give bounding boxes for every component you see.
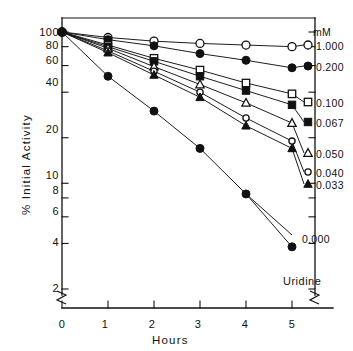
y-tick-label-100: 100 [19, 27, 59, 38]
y-axis-title: % Initial Activity [21, 114, 33, 215]
legend-label-0000[interactable]: 0.000 [302, 234, 330, 245]
x-tick-label-4: 4 [235, 319, 255, 330]
x-tick-label-3: 3 [188, 319, 208, 330]
x-tick-label-1: 1 [95, 319, 115, 330]
y-tick-label-40: 40 [19, 77, 59, 88]
axis-ticks [62, 32, 315, 308]
x-axis-title: Hours [152, 335, 189, 347]
x-tick-label-0: 0 [52, 319, 72, 330]
series-markers [57, 27, 296, 250]
y-tick-label-80: 80 [19, 40, 59, 51]
y-tick-label-60: 60 [19, 55, 59, 66]
axis-break-marks [57, 291, 319, 304]
x-tick-label-5: 5 [282, 319, 302, 330]
legend-label-0067[interactable]: 0.067 [316, 118, 344, 129]
legend-label-0100[interactable]: 0.100 [316, 98, 344, 109]
legend-header-mM: mM [313, 27, 331, 38]
figure-semilog-inactivation-plot: 100 80 60 40 20 10 8 6 4 2 % Initial Act… [0, 0, 353, 351]
axis-frame [62, 18, 333, 308]
compound-annotation-uridine: Uridine [283, 276, 321, 287]
series-lines [62, 32, 292, 247]
y-tick-label-2: 2 [19, 283, 59, 294]
legend-label-0050[interactable]: 0.050 [316, 149, 344, 160]
legend-label-1000[interactable]: 1.000 [316, 41, 344, 52]
x-tick-label-2: 2 [142, 319, 162, 330]
y-tick-label-4: 4 [19, 237, 59, 248]
legend-markers [304, 41, 312, 187]
legend-label-0033[interactable]: 0.033 [316, 180, 344, 191]
legend-label-0040[interactable]: 0.040 [316, 168, 344, 179]
legend-label-0200[interactable]: 0.200 [316, 62, 344, 73]
